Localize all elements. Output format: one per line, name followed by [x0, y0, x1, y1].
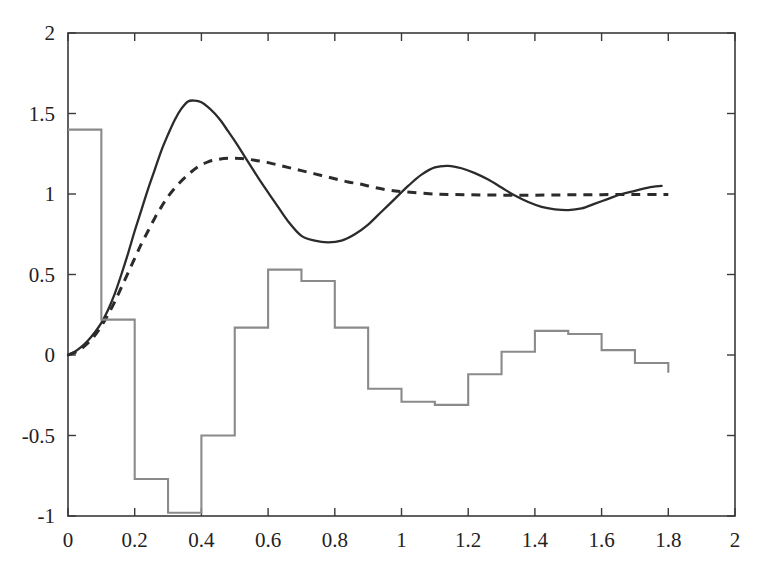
- x-tick-label-1: 0.2: [122, 528, 148, 552]
- series-solid-response: [68, 100, 662, 355]
- x-tick-label-6: 1.2: [455, 528, 481, 552]
- y-tick-label-4: 1: [45, 182, 56, 206]
- chart-figure: 00.20.40.60.811.21.41.61.82-1-0.500.511.…: [0, 0, 776, 575]
- y-tick-label-1: -0.5: [22, 424, 55, 448]
- x-tick-label-9: 1.8: [655, 528, 681, 552]
- tick-marks: [68, 33, 735, 516]
- y-tick-label-5: 1.5: [29, 102, 55, 126]
- x-tick-label-2: 0.4: [188, 528, 215, 552]
- tick-labels: 00.20.40.60.811.21.41.61.82-1-0.500.511.…: [22, 21, 741, 552]
- y-tick-label-3: 0.5: [29, 263, 55, 287]
- data-series-layer: [68, 100, 668, 512]
- line-chart-canvas: 00.20.40.60.811.21.41.61.82-1-0.500.511.…: [0, 0, 776, 575]
- x-tick-label-4: 0.8: [322, 528, 348, 552]
- x-tick-label-5: 1: [396, 528, 407, 552]
- plot-frame: [68, 33, 735, 516]
- y-tick-label-0: -1: [38, 504, 56, 528]
- x-tick-label-8: 1.6: [588, 528, 614, 552]
- y-tick-label-6: 2: [45, 21, 56, 45]
- axis-frame: [68, 33, 735, 516]
- y-tick-label-2: 0: [45, 343, 56, 367]
- x-tick-label-7: 1.4: [522, 528, 549, 552]
- series-dashed-response: [68, 158, 668, 355]
- x-tick-label-10: 2: [730, 528, 741, 552]
- x-tick-label-0: 0: [63, 528, 74, 552]
- x-tick-label-3: 0.6: [255, 528, 281, 552]
